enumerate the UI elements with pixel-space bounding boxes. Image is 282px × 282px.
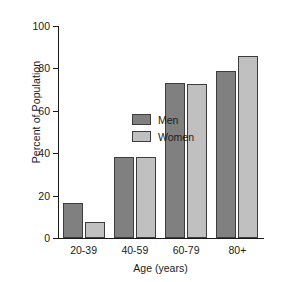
y-tick-40: 40 bbox=[58, 153, 59, 154]
y-tick-100: 100 bbox=[58, 26, 59, 27]
x-tick-label-60-79: 60-79 bbox=[173, 244, 200, 256]
bar-men-20-39 bbox=[63, 203, 83, 238]
legend-swatch-women bbox=[132, 131, 151, 142]
legend-item-women: Women bbox=[132, 128, 194, 145]
bar-women-60-79 bbox=[187, 84, 207, 238]
bar-women-80+ bbox=[238, 56, 258, 238]
plot-area: 020406080100 20-3940-5960-7980+ MenWomen bbox=[58, 26, 263, 238]
bar-men-60-79 bbox=[165, 83, 185, 238]
legend-label-men: Men bbox=[158, 114, 178, 126]
x-tick-label-20-39: 20-39 bbox=[70, 244, 97, 256]
x-axis-line bbox=[58, 238, 264, 239]
y-tick-mark bbox=[53, 111, 58, 112]
y-tick-0: 0 bbox=[58, 238, 59, 239]
y-tick-mark bbox=[53, 238, 58, 239]
y-tick-mark bbox=[53, 153, 58, 154]
y-tick-label: 60 bbox=[20, 105, 50, 117]
y-tick-60: 60 bbox=[58, 111, 59, 112]
y-tick-mark bbox=[53, 26, 58, 27]
chart-figure: Percent of Population 020406080100 20-39… bbox=[0, 0, 282, 282]
x-tick-label-80+: 80+ bbox=[228, 244, 246, 256]
y-tick-mark bbox=[53, 68, 58, 69]
x-tick-label-40-59: 40-59 bbox=[121, 244, 148, 256]
y-tick-label: 0 bbox=[20, 232, 50, 244]
bar-women-40-59 bbox=[136, 157, 156, 238]
legend-swatch-men bbox=[132, 114, 151, 125]
legend-item-men: Men bbox=[132, 111, 194, 128]
y-tick-label: 20 bbox=[20, 190, 50, 202]
y-tick-80: 80 bbox=[58, 68, 59, 69]
y-tick-mark bbox=[53, 196, 58, 197]
bar-men-40-59 bbox=[114, 157, 134, 238]
y-tick-label: 40 bbox=[20, 147, 50, 159]
y-tick-label: 100 bbox=[20, 20, 50, 32]
y-tick-20: 20 bbox=[58, 196, 59, 197]
x-axis-title: Age (years) bbox=[58, 262, 263, 274]
bar-women-20-39 bbox=[85, 222, 105, 238]
bar-men-80+ bbox=[216, 71, 236, 238]
legend: MenWomen bbox=[132, 111, 194, 145]
legend-label-women: Women bbox=[158, 131, 194, 143]
y-axis-line bbox=[58, 26, 59, 239]
y-tick-label: 80 bbox=[20, 62, 50, 74]
